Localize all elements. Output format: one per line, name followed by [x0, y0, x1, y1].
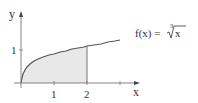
shaded-area	[21, 46, 87, 83]
root-index: 3	[170, 23, 173, 29]
function-label-prefix: f(x) =	[135, 27, 160, 40]
x-axis-label: x	[133, 85, 139, 99]
y-axis-label: y	[9, 7, 15, 21]
y-tick-label-1: 1	[11, 44, 17, 56]
radicand: x	[175, 27, 181, 39]
chart: y x 1 2 1 f(x) = 3 x	[0, 0, 198, 103]
x-tick-label-2: 2	[84, 88, 90, 100]
y-axis-arrow-icon	[19, 11, 23, 17]
x-tick-label-1: 1	[51, 88, 57, 100]
